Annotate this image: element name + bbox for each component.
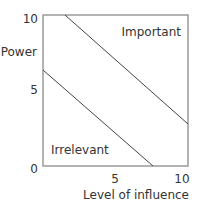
x-tick-10: 10 (174, 172, 189, 186)
y-tick-0: 0 (30, 162, 38, 176)
y-tick-5: 5 (30, 83, 38, 97)
x-axis-label: Level of influence (83, 188, 189, 202)
region-important-label: Important (122, 25, 182, 39)
power-influence-chart: 10 5 0 Power 5 10 Level of influence Imp… (0, 0, 199, 203)
x-tick-5: 5 (111, 172, 119, 186)
y-tick-10: 10 (23, 12, 38, 26)
y-axis-label: Power (1, 45, 37, 59)
region-irrelevant-label: Irrelevant (51, 143, 109, 157)
